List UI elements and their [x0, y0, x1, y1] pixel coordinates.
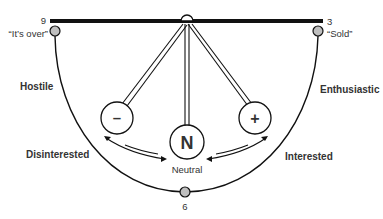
arrowhead-left-down	[161, 156, 167, 162]
swing-arrow-right	[208, 138, 266, 159]
node-left	[50, 26, 60, 36]
label-disinterested: Disinterested	[26, 149, 89, 160]
label-neutral: Neutral	[172, 164, 203, 175]
rod-positive	[188, 24, 252, 106]
rod-neutral	[185, 24, 189, 126]
bottom-number: 6	[182, 201, 187, 212]
right-quote: “Sold”	[327, 28, 352, 39]
label-interested: Interested	[285, 151, 333, 162]
pivot-icon	[181, 15, 193, 21]
bob-negative: –	[101, 102, 133, 134]
rod-negative	[122, 24, 187, 106]
minus-symbol: –	[113, 109, 121, 126]
label-enthusiastic: Enthusiastic	[320, 84, 380, 95]
pendulum-diagram: – N + 9 “It’s over” 3 “Sold” 6 Hostile D…	[0, 0, 383, 219]
bob-positive: +	[239, 102, 271, 134]
plus-symbol: +	[250, 110, 259, 127]
label-hostile: Hostile	[20, 81, 54, 92]
node-right	[313, 26, 323, 36]
neutral-symbol: N	[181, 133, 194, 153]
right-number: 3	[327, 16, 332, 27]
left-number: 9	[41, 15, 46, 26]
bob-neutral: N	[170, 125, 204, 159]
swing-arrow-left	[106, 138, 165, 159]
arrowhead-right-down	[206, 156, 212, 162]
left-quote: “It’s over”	[9, 28, 48, 39]
node-bottom	[180, 187, 190, 197]
